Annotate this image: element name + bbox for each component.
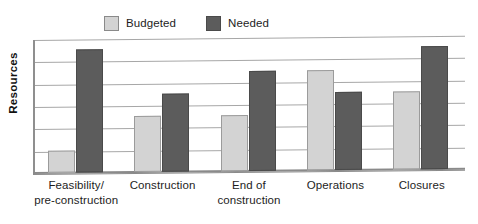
x-tick-line-2: construction: [192, 193, 306, 208]
x-tick-line-1: Construction: [130, 179, 196, 191]
bar-budgeted-4: [393, 91, 420, 169]
plot-area: [33, 40, 465, 174]
x-axis-tick-labels: Feasibility/pre-constructionConstruction…: [33, 178, 465, 222]
legend-entry-needed: Needed: [206, 16, 269, 31]
x-tick-line-1: Operations: [307, 179, 364, 191]
x-tick-line-1: Feasibility/: [48, 179, 104, 191]
bar-needed-4: [421, 46, 448, 169]
legend-label-budgeted: Budgeted: [126, 17, 176, 29]
bar-budgeted-0: [48, 150, 75, 173]
legend-swatch-budgeted-icon: [104, 16, 119, 31]
y-axis-title: Resources: [7, 47, 19, 119]
bar-needed-2: [249, 70, 276, 171]
bar-needed-1: [162, 93, 189, 171]
x-tick-line-1: Closures: [399, 179, 445, 191]
legend-swatch-needed-icon: [206, 16, 221, 31]
chart-screenshot: Budgeted Needed Resources Feasibility/pr…: [0, 0, 478, 224]
x-tick-line-1: End of: [232, 179, 266, 191]
bar-budgeted-3: [307, 70, 334, 171]
bar-budgeted-1: [134, 116, 161, 172]
bar-needed-3: [335, 92, 362, 170]
bar-needed-0: [76, 50, 103, 173]
legend-entry-budgeted: Budgeted: [104, 16, 176, 31]
x-tick-label-4: Closures: [365, 178, 478, 193]
bars-layer: [33, 36, 465, 174]
legend-label-needed: Needed: [228, 17, 269, 29]
chart-legend: Budgeted Needed: [104, 13, 269, 33]
x-tick-line-2: pre-construction: [19, 193, 133, 208]
bar-budgeted-2: [221, 115, 248, 171]
plot-inner: [33, 36, 465, 174]
